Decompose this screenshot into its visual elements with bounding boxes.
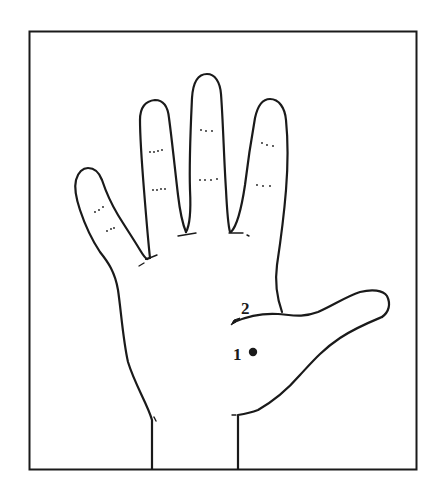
- point-1-dot: [249, 348, 257, 356]
- finger-base-creases: [139, 233, 249, 421]
- diagram-frame: [30, 32, 417, 470]
- pinky-finger-outline: [75, 168, 152, 469]
- thumb-top-outline: [234, 290, 389, 322]
- point-2-label: 2: [241, 300, 250, 317]
- finger-joint-creases: [94, 129, 274, 232]
- point-2-marker: [231, 318, 240, 325]
- hand-outline-drawing: [0, 0, 436, 485]
- thumb-bottom-outline: [238, 317, 382, 469]
- point-1-label: 1: [233, 346, 242, 363]
- middle-finger-outline: [186, 74, 230, 232]
- hand-diagram: 2 1: [0, 0, 436, 485]
- index-finger-outline: [231, 99, 288, 312]
